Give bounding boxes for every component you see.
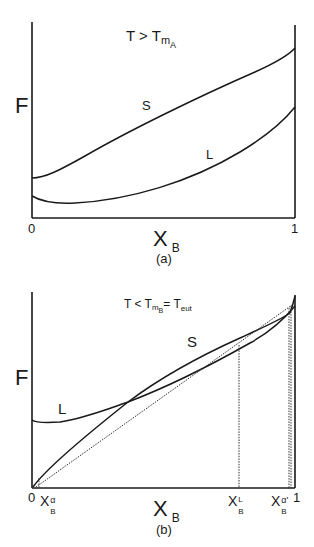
panel-a-solid-curve: [32, 48, 295, 178]
mark-sup: α': [281, 496, 288, 505]
panel-a-solid-label: S: [142, 99, 151, 112]
composition-drop-lines: [39, 306, 291, 488]
mark-main: X: [228, 493, 237, 509]
title-sub-m: m: [152, 303, 159, 312]
mark-sup: α: [50, 496, 55, 505]
title-part-2: = T: [163, 297, 180, 311]
title-sub-a: A: [170, 40, 176, 50]
panel-b-title: T < TmB= Teut: [124, 298, 192, 310]
panel-b-x-label: XB: [153, 498, 180, 520]
panel-a-axes: [32, 22, 295, 218]
mark-main: X: [271, 493, 280, 509]
title-text: T > T: [126, 27, 161, 44]
panel-a-liquid-curve: [32, 107, 295, 203]
title-part-1: T < T: [124, 297, 152, 311]
mark-sub: B: [281, 508, 286, 516]
panel-a-caption: (a): [156, 252, 172, 265]
mark-x-b-liquid: XLB: [228, 494, 245, 508]
x-label-sub: B: [172, 241, 180, 255]
panel-a-liquid-label: L: [206, 148, 213, 161]
mark-main: X: [40, 493, 49, 509]
title-sub-eut: eut: [181, 304, 192, 313]
mark-sub: B: [238, 508, 243, 516]
panel-b-caption: (b): [156, 523, 172, 536]
panel-a-tick-1: 1: [291, 222, 298, 235]
mark-sup: L: [238, 496, 242, 504]
panel-b-tick-1: 1: [293, 491, 300, 504]
mark-x-b-alpha-prime: Xα'B: [271, 494, 288, 508]
panel-a-tick-0: 0: [28, 222, 35, 235]
panel-a-title: T > TmA: [126, 28, 176, 43]
panel-b-y-label: F: [15, 367, 28, 389]
x-label-main: X: [153, 226, 168, 251]
panel-a-y-label: F: [15, 95, 28, 117]
x-label-main: X: [153, 496, 168, 521]
panel-b-liquid-label: L: [58, 401, 66, 416]
panel-b-liquid-curve: [32, 306, 295, 423]
x-label-sub: B: [172, 511, 180, 525]
panel-b-solid-label: S: [187, 334, 197, 349]
free-energy-diagrams: [0, 0, 314, 547]
mark-sub: B: [50, 508, 55, 516]
title-sub-m: m: [161, 34, 170, 46]
panel-b-tick-0: 0: [28, 491, 35, 504]
title-sub-b: B: [159, 307, 164, 314]
panel-b-axes: [32, 292, 295, 488]
panel-a-x-label: XB: [153, 228, 180, 250]
mark-x-b-alpha: XαB: [40, 494, 57, 508]
panel-b-solid-curve: [33, 296, 295, 487]
